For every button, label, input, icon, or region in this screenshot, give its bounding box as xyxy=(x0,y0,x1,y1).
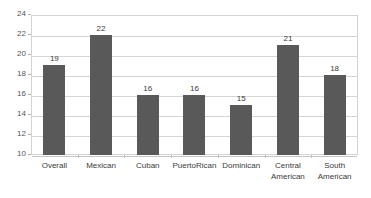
bar[interactable] xyxy=(230,105,252,155)
y-axis: 1012141618202224 xyxy=(0,15,31,155)
bar-value-label: 19 xyxy=(50,54,59,63)
bar-slot: 15 xyxy=(218,15,265,155)
bar-value-label: 21 xyxy=(283,34,292,43)
bar-slot: 21 xyxy=(265,15,312,155)
x-axis-ticks xyxy=(31,155,358,159)
bar-chart: 1012141618202224 19221616152118 OverallM… xyxy=(0,0,371,198)
y-tick-label: 20 xyxy=(17,49,26,59)
x-axis-tick xyxy=(171,155,172,158)
bar[interactable] xyxy=(277,45,299,155)
x-axis-tick xyxy=(218,155,219,158)
bar-slot: 22 xyxy=(78,15,125,155)
x-axis-label: Dominican xyxy=(218,160,265,171)
bar[interactable] xyxy=(324,75,346,155)
bar-slot: 18 xyxy=(311,15,358,155)
y-tick-label: 10 xyxy=(17,149,26,159)
bar-value-label: 18 xyxy=(330,64,339,73)
y-tick-label: 12 xyxy=(17,129,26,139)
bar-value-label: 15 xyxy=(237,94,246,103)
y-tick-label: 22 xyxy=(17,29,26,39)
x-axis-label: Central American xyxy=(265,160,312,182)
bar-slot: 16 xyxy=(171,15,218,155)
x-axis-label: PuertoRican xyxy=(171,160,218,171)
bars-container: 19221616152118 xyxy=(31,15,358,155)
y-tick-label: 16 xyxy=(17,89,26,99)
x-axis-tick xyxy=(78,155,79,158)
y-tick-label: 14 xyxy=(17,109,26,119)
bar-value-label: 22 xyxy=(97,24,106,33)
y-tick-label: 24 xyxy=(17,9,26,19)
bar[interactable] xyxy=(137,95,159,155)
y-tick-label: 18 xyxy=(17,69,26,79)
x-axis-tick xyxy=(124,155,125,158)
x-axis-label: Cuban xyxy=(124,160,171,171)
bar-value-label: 16 xyxy=(143,84,152,93)
x-axis-label: South American xyxy=(311,160,358,182)
bar-value-label: 16 xyxy=(190,84,199,93)
bar[interactable] xyxy=(90,35,112,155)
bar[interactable] xyxy=(43,65,65,155)
x-axis-tick xyxy=(311,155,312,158)
x-axis-labels: OverallMexicanCubanPuertoRicanDominicanC… xyxy=(31,160,358,194)
bar-slot: 19 xyxy=(31,15,78,155)
x-axis-label: Overall xyxy=(31,160,78,171)
x-axis-tick xyxy=(265,155,266,158)
x-axis-label: Mexican xyxy=(78,160,125,171)
bar-slot: 16 xyxy=(124,15,171,155)
bar[interactable] xyxy=(183,95,205,155)
